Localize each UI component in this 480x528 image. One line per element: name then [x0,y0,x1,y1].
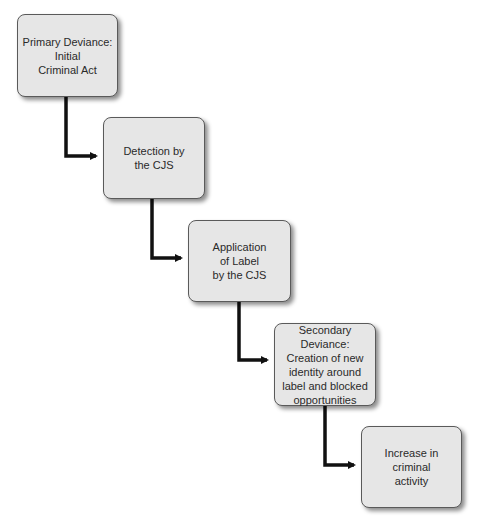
node-application-of-label: Application of Label by the CJS [188,220,291,302]
node-secondary-deviance: Secondary Deviance: Creation of new iden… [274,323,376,406]
arrow-connector-3 [239,302,267,360]
arrow-connector-4 [325,406,354,465]
node-increase-in-criminal-activity: Increase in criminal activity [361,426,462,508]
arrow-connector-2 [152,199,181,258]
flowchart-canvas: Primary Deviance: Initial Criminal Act D… [0,0,480,528]
node-primary-deviance: Primary Deviance: Initial Criminal Act [17,14,118,97]
arrow-connector-1 [66,97,96,156]
node-detection: Detection by the CJS [103,117,205,199]
